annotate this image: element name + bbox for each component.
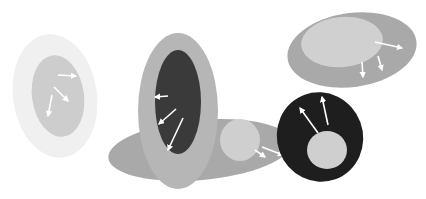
cell-small-circle-inner-ellipse: [220, 119, 260, 161]
cell-tall: [138, 33, 218, 189]
cell-dark-ring-inner-ellipse: [307, 131, 347, 169]
arrow-icon: [155, 96, 168, 97]
cell-faint: [5, 29, 105, 163]
arrow-icon: [362, 62, 363, 77]
diagram-canvas: [0, 0, 426, 199]
cell-dark-ring: [264, 80, 376, 194]
arrow-icon: [58, 75, 76, 76]
cell-tall-inner-ellipse: [155, 50, 201, 154]
shapes-layer: [5, 4, 422, 194]
cell-top-right: [282, 4, 421, 95]
